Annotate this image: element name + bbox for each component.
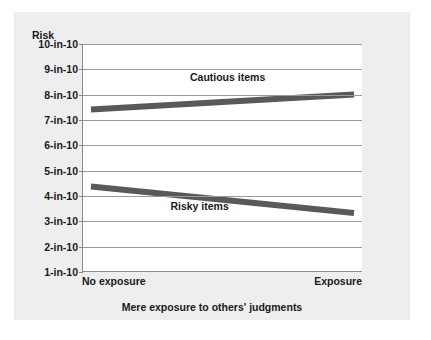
x-tick-label-exposure: Exposure [314, 275, 362, 287]
y-tick-mark [79, 120, 83, 121]
chart-panel: Risk 10-in-109-in-108-in-107-in-106-in-1… [14, 12, 410, 320]
y-tick-mark [79, 272, 83, 273]
y-tick-mark [79, 247, 83, 248]
y-tick-label: 8-in-10 [16, 89, 78, 101]
gridline [83, 221, 362, 222]
y-tick-mark [79, 221, 83, 222]
y-tick-mark [79, 95, 83, 96]
y-tick-label: 6-in-10 [16, 139, 78, 151]
series-label-risky-items: Risky items [170, 200, 228, 212]
x-axis-title: Mere exposure to others' judgments [14, 301, 410, 313]
gridline [83, 145, 362, 146]
gridline [83, 44, 362, 45]
series-line-0 [91, 94, 354, 109]
y-tick-label: 7-in-10 [16, 114, 78, 126]
y-tick-mark [79, 171, 83, 172]
chart-area: Risk 10-in-109-in-108-in-107-in-106-in-1… [14, 12, 410, 320]
gridline [83, 247, 362, 248]
y-tick-label: 10-in-10 [16, 38, 78, 50]
y-tick-label: 3-in-10 [16, 215, 78, 227]
gridline [83, 171, 362, 172]
y-tick-mark [79, 145, 83, 146]
gridline [83, 95, 362, 96]
y-tick-mark [79, 69, 83, 70]
x-tick-label-no-exposure: No exposure [82, 275, 146, 287]
figure-container: Risk 10-in-109-in-108-in-107-in-106-in-1… [0, 0, 431, 340]
y-axis-tick-labels: 10-in-109-in-108-in-107-in-106-in-105-in… [14, 12, 78, 320]
series-label-cautious-items: Cautious items [190, 71, 265, 83]
gridline [83, 120, 362, 121]
y-tick-mark [79, 44, 83, 45]
y-tick-label: 4-in-10 [16, 190, 78, 202]
y-tick-mark [79, 196, 83, 197]
gridline [83, 196, 362, 197]
y-tick-label: 2-in-10 [16, 241, 78, 253]
y-tick-label: 9-in-10 [16, 63, 78, 75]
y-tick-label: 1-in-10 [16, 266, 78, 278]
y-tick-label: 5-in-10 [16, 165, 78, 177]
